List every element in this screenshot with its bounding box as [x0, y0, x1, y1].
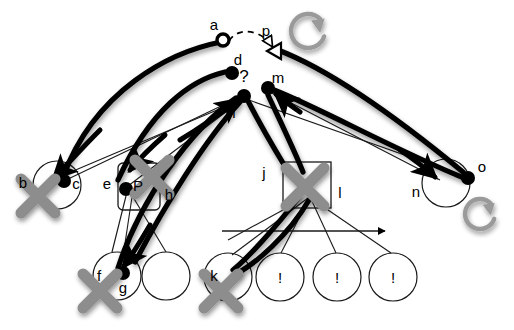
rotate-icon-rotate_top: [291, 14, 325, 48]
label-o: o: [478, 158, 486, 175]
thin-edge-t_eP_f: [112, 196, 126, 252]
node-o: [461, 171, 475, 185]
label-bang2: !: [335, 269, 339, 286]
label-j: j: [261, 164, 265, 181]
open-circle-n: [422, 159, 470, 207]
rotate-icon-rotate_bottom: [465, 199, 495, 229]
rotate-arrowhead: [311, 18, 325, 32]
label-a: a: [210, 16, 219, 33]
label-i: i: [232, 104, 235, 121]
label-bang3: !: [391, 269, 395, 286]
label-b: b: [19, 174, 27, 191]
node-i: [237, 89, 251, 103]
label-bang1: !: [278, 269, 282, 286]
label-g: g: [119, 279, 127, 296]
label-n: n: [412, 183, 420, 200]
diagram-canvas: bfk!!!nehladimcgoPpj?: [0, 0, 514, 330]
open-circle-blank: [142, 252, 190, 300]
diagram-svg: bfk!!!nehladimcgoPpj?: [0, 0, 514, 330]
label-l_box-right: l: [338, 184, 341, 201]
arrowhead-p: [267, 43, 281, 59]
label-question-mark: ?: [239, 67, 248, 86]
label-eP: P: [133, 177, 143, 194]
label-p: p: [262, 22, 270, 39]
label-d: d: [234, 51, 242, 68]
label-eh_box-left: e: [103, 175, 111, 192]
label-m: m: [272, 69, 285, 86]
label-f: f: [97, 267, 102, 284]
rotate-arrowhead: [483, 203, 495, 216]
thick-edge-group: [63, 42, 464, 274]
node-a: [217, 34, 229, 46]
label-k: k: [210, 267, 218, 284]
thick-arrow-to_i_l: [180, 100, 238, 140]
label-c: c: [72, 175, 80, 192]
label-eh_box-right: h: [165, 186, 173, 203]
node-d: [225, 66, 239, 80]
